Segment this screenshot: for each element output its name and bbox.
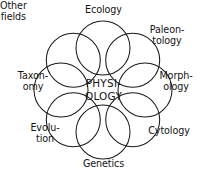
circle-genetics (76, 105, 130, 159)
venn-ring-diagram: PHYSI-OLOGY Ecology Paleon- tology Morph… (0, 0, 207, 181)
center-label: PHYSI-OLOGY (0, 77, 207, 102)
node-label-paleontology: Paleon- tology (130, 24, 204, 46)
node-label-evolution: Evolu- tion (15, 122, 75, 144)
node-label-ecology: Ecology (0, 4, 207, 15)
node-label-genetics: Genetics (0, 158, 207, 169)
center-label-line2: OLOGY (85, 90, 122, 102)
center-label-line1: PHYSI- (86, 77, 122, 89)
node-label-cytology: Cytology (135, 125, 203, 136)
node-label-other-fields: Other fields (0, 0, 27, 22)
circle-ecology (76, 21, 130, 75)
